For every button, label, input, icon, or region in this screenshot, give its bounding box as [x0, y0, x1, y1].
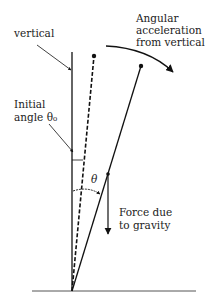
- label-angular-line2: acceleration: [136, 24, 202, 36]
- label-initial-line2: angle θ₀: [14, 111, 57, 123]
- pendulum-diagram: vertical Angular acceleration from verti…: [0, 0, 205, 304]
- label-theta: θ: [91, 173, 98, 185]
- initial-pendulum-mass: [92, 54, 96, 58]
- label-initial-line1: Initial: [14, 98, 46, 110]
- label-vertical: vertical: [13, 27, 55, 39]
- pendulum-line: [72, 66, 141, 291]
- initial-angle-leader-line: [49, 124, 73, 152]
- label-force-line2: to gravity: [119, 219, 170, 231]
- pendulum-mass: [139, 64, 143, 68]
- angular-acceleration-arrow: [106, 46, 173, 72]
- label-angular-line3: from vertical: [136, 36, 205, 48]
- theta-arc: [73, 189, 100, 194]
- vertical-leader-line: [37, 45, 71, 70]
- label-force-line1: Force due: [119, 206, 172, 218]
- label-angular-line1: Angular: [135, 12, 179, 24]
